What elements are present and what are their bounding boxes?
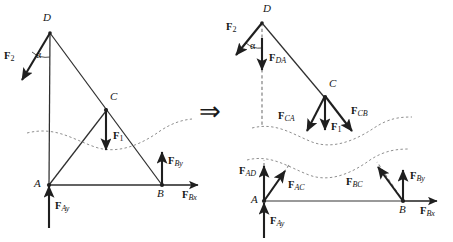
point-label-C-right: C — [329, 78, 336, 89]
force-subscript-AC: AC — [294, 183, 304, 192]
force-F2-arrow-right — [236, 23, 262, 55]
joint-dot-A-right — [262, 199, 266, 203]
force-subscript-Ay: Ay — [276, 219, 284, 228]
point-label-A-right: A — [251, 194, 258, 205]
force-FAC-arrow — [264, 171, 285, 201]
section-cut-curve-left — [27, 119, 192, 150]
force-label-FBx-right: FBx — [420, 206, 435, 217]
force-label-FBx-left: FBx — [182, 190, 197, 201]
force-subscript-2: 2 — [232, 25, 236, 34]
force-label-FCA: FCA — [278, 111, 295, 122]
force-subscript-CA: CA — [284, 114, 294, 123]
force-label-F2-right: F2 — [226, 22, 236, 33]
force-subscript-CB: CB — [357, 109, 367, 118]
joint-dot-C — [104, 108, 108, 112]
point-label-A-left: A — [34, 178, 41, 189]
force-subscript-Bx: Bx — [188, 193, 196, 202]
force-label-FCB: FCB — [351, 106, 368, 117]
left-force-arrows — [22, 33, 198, 228]
point-label-D-left: D — [43, 12, 51, 23]
force-subscript-2: 2 — [10, 54, 14, 63]
force-label-FAy-right: FAy — [270, 216, 284, 227]
force-subscript-AD: AD — [245, 169, 256, 178]
joint-dot-D-right — [260, 21, 264, 25]
force-label-FBy-right: FBy — [410, 171, 425, 182]
force-label-F1-right: F1 — [331, 122, 341, 133]
force-subscript-1: 1 — [337, 125, 341, 134]
angle-label-alpha-left: α — [36, 50, 41, 60]
figure-canvas: D C A B α F2 F1 FAy FBy FBx ⇒ D C α F2 F… — [0, 0, 453, 242]
force-subscript-Ay: Ay — [61, 204, 69, 213]
force-label-FAD: FAD — [239, 166, 256, 177]
joint-dot-C-right — [323, 95, 327, 99]
force-subscript-BC: BC — [352, 180, 362, 189]
implication-arrow-symbol: ⇒ — [199, 99, 219, 125]
force-FBC-arrow — [378, 167, 403, 201]
force-label-FAC: FAC — [288, 180, 305, 191]
force-subscript-By: By — [174, 159, 182, 168]
joint-dot-D — [48, 31, 52, 35]
point-label-B-left: B — [157, 188, 164, 199]
member-DA — [49, 33, 50, 185]
force-label-FBy-left: FBy — [168, 156, 183, 167]
force-label-F2-left: F2 — [4, 51, 14, 62]
point-label-B-right: B — [399, 204, 406, 215]
force-subscript-Bx: Bx — [426, 209, 434, 218]
angle-label-alpha-right: α — [250, 41, 255, 51]
force-subscript-DA: DA — [275, 56, 286, 65]
point-label-C-left: C — [110, 91, 117, 102]
force-FCA-arrow — [307, 96, 325, 131]
force-subscript-By: By — [416, 174, 424, 183]
force-label-FBC: FBC — [346, 177, 363, 188]
force-label-FAy-left: FAy — [55, 201, 69, 212]
force-subscript-1: 1 — [119, 134, 123, 143]
force-label-FDA: FDA — [269, 53, 286, 64]
force-label-F1-left: F1 — [113, 131, 123, 142]
section-cut-curve-lower-right — [247, 149, 410, 178]
joint-dot-A — [47, 183, 51, 187]
point-label-D-right: D — [263, 3, 271, 14]
